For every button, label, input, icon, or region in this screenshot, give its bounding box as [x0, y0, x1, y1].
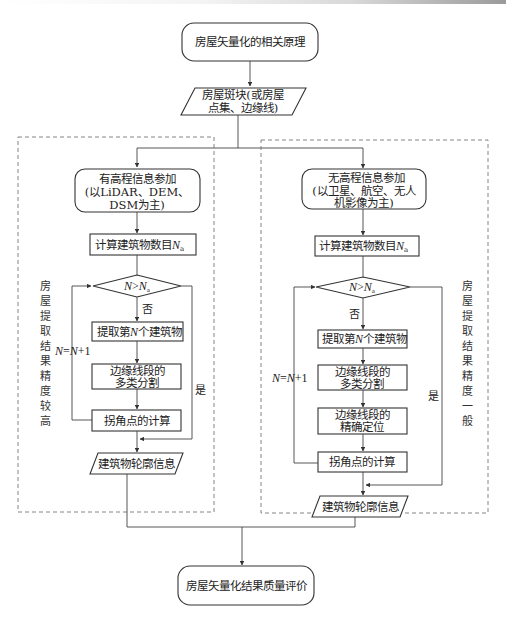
left-start-line2: (以LiDAR、DEM、 — [85, 185, 189, 199]
left-extract-label: 提取第N个建筑物 — [97, 325, 182, 339]
svg-text:较: 较 — [40, 399, 51, 413]
left-count-label: 计算建筑物数目Na — [95, 238, 184, 253]
right-decision-node: N>Na — [316, 277, 410, 298]
input-node-line2: 点集、边缘线) — [208, 101, 279, 115]
svg-text:提: 提 — [40, 310, 51, 323]
left-decision-label: N>Na — [123, 279, 151, 294]
left-corner-label: 拐角点的计算 — [104, 414, 170, 428]
right-start-line1: 无高程信息参加 — [328, 171, 405, 185]
start-node: 房屋矢量化的相关原理 — [182, 23, 318, 61]
left-loop-label: N=N+1 — [54, 344, 91, 358]
svg-text:度: 度 — [462, 384, 473, 398]
svg-text:屋: 屋 — [462, 295, 473, 308]
svg-text:屋: 屋 — [40, 295, 51, 308]
flowchart: 房屋矢量化的相关原理 房屋斑块(或房屋 点集、边缘线) 有高程信息参加 (以Li… — [0, 0, 506, 619]
input-node: 房屋斑块(或房屋 点集、边缘线) — [181, 88, 306, 115]
right-no-label: 否 — [349, 308, 360, 321]
right-corner-label: 拐角点的计算 — [329, 455, 395, 469]
split-bar — [137, 148, 363, 158]
left-decision-node: N>Na — [93, 275, 181, 297]
right-count-label: 计算建筑物数目Na — [319, 239, 408, 254]
svg-text:房: 房 — [462, 280, 473, 293]
svg-text:房: 房 — [40, 280, 51, 293]
right-locate-line2: 精确定位 — [340, 420, 384, 434]
svg-text:取: 取 — [40, 325, 51, 338]
right-decision-label: N>Na — [348, 280, 376, 295]
left-start-line1: 有高程信息参加 — [99, 172, 176, 186]
svg-text:取: 取 — [462, 325, 473, 338]
right-merge-line — [242, 517, 355, 527]
right-output-label: 建筑物轮廓信息 — [322, 500, 399, 514]
end-node-label: 房屋矢量化结果质量评价 — [186, 579, 308, 593]
right-side-label: 房 屋 提 取 结 果 精 度 一 般 — [462, 280, 473, 428]
left-output-label: 建筑物轮廓信息 — [98, 457, 175, 471]
right-segment-line2: 多类分割 — [340, 377, 384, 391]
svg-text:结: 结 — [462, 340, 473, 353]
left-extract-node: 提取第N个建筑物 — [92, 322, 183, 341]
start-node-label: 房屋矢量化的相关原理 — [195, 35, 306, 49]
left-start-line3: DSM为主) — [109, 198, 164, 212]
right-extract-node: 提取第N个建筑物 — [318, 330, 407, 348]
svg-text:高: 高 — [40, 414, 51, 428]
left-no-label: 否 — [142, 303, 153, 316]
left-yes-label: 是 — [195, 384, 206, 397]
svg-text:果: 果 — [40, 355, 51, 368]
left-segment-node: 边缘线段的 多类分割 — [92, 364, 181, 390]
svg-text:结: 结 — [40, 340, 51, 353]
svg-text:般: 般 — [462, 415, 473, 428]
right-output-node: 建筑物轮廓信息 — [312, 496, 408, 517]
right-loop-label: N=N+1 — [271, 371, 308, 385]
left-count-node: 计算建筑物数目Na — [90, 234, 196, 255]
right-extract-label: 提取第N个建筑物 — [322, 332, 407, 346]
right-start-node: 无高程信息参加 (以卫星、航空、无人 机影像为主) — [302, 169, 426, 210]
left-corner-node: 拐角点的计算 — [92, 410, 181, 431]
svg-text:精: 精 — [40, 370, 51, 383]
right-corner-node: 拐角点的计算 — [318, 452, 407, 472]
right-start-line3: 机影像为主) — [334, 196, 394, 210]
left-start-node: 有高程信息参加 (以LiDAR、DEM、 DSM为主) — [75, 169, 200, 212]
svg-text:果: 果 — [462, 355, 473, 368]
left-merge-line — [127, 474, 242, 527]
left-side-label: 房 屋 提 取 结 果 精 度 较 高 — [40, 280, 51, 428]
svg-text:提: 提 — [462, 310, 473, 323]
svg-text:一: 一 — [462, 400, 473, 413]
left-segment-line2: 多类分割 — [115, 376, 159, 390]
end-node: 房屋矢量化结果质量评价 — [178, 566, 314, 605]
left-output-node: 建筑物轮廓信息 — [90, 453, 183, 474]
right-locate-node: 边缘线段的 精确定位 — [318, 408, 407, 434]
right-yes-label: 是 — [428, 390, 439, 403]
right-count-node: 计算建筑物数目Na — [315, 236, 419, 256]
input-node-line1: 房屋斑块(或房屋 — [202, 88, 284, 102]
svg-text:精: 精 — [462, 370, 473, 383]
svg-text:度: 度 — [40, 384, 51, 398]
right-segment-node: 边缘线段的 多类分割 — [318, 365, 407, 391]
